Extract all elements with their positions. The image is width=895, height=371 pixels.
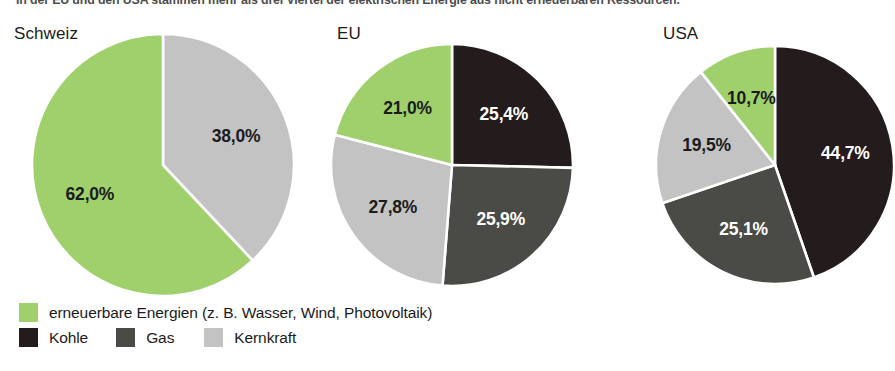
legend-label-gas: Gas (146, 329, 174, 347)
legend-label-kohle: Kohle (49, 329, 88, 347)
pie-slice-value-label: 25,1% (719, 219, 768, 239)
legend-entry-kohle: Kohle (19, 328, 88, 347)
pie-slice-value-label: 27,8% (369, 197, 418, 217)
pie-chart-eu: 25,4%25,9%27,8%21,0% (330, 36, 578, 290)
pie-slice-value-label: 38,0% (212, 126, 261, 146)
pie-slice-value-label: 62,0% (66, 184, 115, 204)
legend-entry-gas: Gas (116, 328, 174, 347)
energy-mix-figure: In der EU und den USA stammen mehr als d… (0, 0, 895, 371)
legend-swatch-gas (116, 328, 135, 347)
pie-slice-value-label: 25,4% (480, 104, 529, 124)
legend-entry-erneuerbar: erneuerbare Energien (z. B. Wasser, Wind… (19, 303, 432, 322)
legend-row-renewables: erneuerbare Energien (z. B. Wasser, Wind… (19, 300, 619, 325)
legend-swatch-kernkraft (204, 328, 223, 347)
legend: erneuerbare Energien (z. B. Wasser, Wind… (19, 300, 619, 350)
pie-slice-value-label: 44,7% (821, 143, 870, 163)
legend-label-kernkraft: Kernkraft (234, 329, 296, 347)
pie-slice-value-label: 21,0% (383, 98, 432, 118)
legend-label-erneuerbar: erneuerbare Energien (z. B. Wasser, Wind… (49, 304, 432, 322)
legend-swatch-erneuerbar (19, 303, 38, 322)
pie-slice-value-label: 10,7% (727, 88, 776, 108)
pie-slice-value-label: 25,9% (476, 209, 525, 229)
legend-swatch-kohle (19, 328, 38, 347)
pie-slice-value-label: 19,5% (682, 135, 731, 155)
figure-caption: In der EU und den USA stammen mehr als d… (16, 0, 886, 7)
pie-chart-schweiz: 38,0%62,0% (28, 32, 300, 300)
legend-entry-kernkraft: Kernkraft (204, 328, 296, 347)
legend-row-nonrenewables: Kohle Gas Kernkraft (19, 325, 619, 350)
pie-chart-usa: 44,7%25,1%19,5%10,7% (655, 36, 895, 286)
